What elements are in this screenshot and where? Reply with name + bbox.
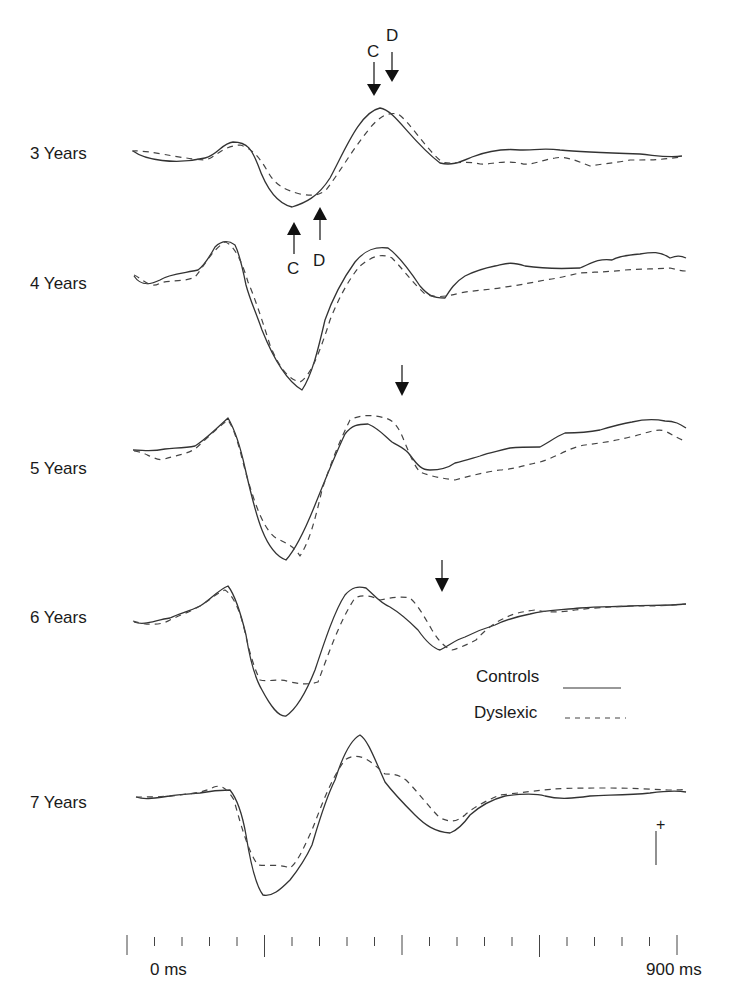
arrow-5y — [395, 365, 409, 396]
panel-7-years — [136, 735, 686, 895]
trace-dyslexic-4y — [134, 242, 686, 382]
trace-controls-6y — [134, 586, 686, 716]
trace-controls-4y — [134, 241, 686, 390]
trace-dyslexic-7y — [136, 756, 686, 868]
trace-dyslexic-5y — [134, 416, 686, 556]
trace-dyslexic-6y — [133, 590, 686, 684]
arrow-c-peak-3y — [367, 62, 381, 96]
arrow-6y — [435, 560, 449, 592]
arrow-d-trough-3y — [313, 207, 327, 240]
trace-controls-5y — [133, 418, 686, 560]
panel-3-years — [132, 108, 682, 207]
time-axis-ticks — [127, 935, 677, 957]
erp-waveform-plot — [0, 0, 738, 996]
arrow-c-trough-3y — [287, 222, 301, 254]
trace-controls-7y — [136, 735, 686, 895]
panel-6-years — [133, 586, 686, 716]
arrow-d-peak-3y — [385, 52, 399, 82]
panel-4-years — [134, 241, 686, 390]
panel-5-years — [133, 416, 686, 560]
